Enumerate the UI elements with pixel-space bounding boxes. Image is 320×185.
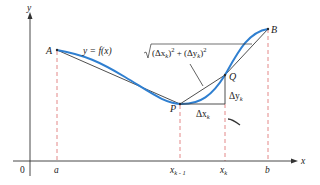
arc-length-diagram: A B P Q y = f(x) (Δxk)2 + (Δyk)2 Δxk Δyk…: [0, 0, 320, 185]
svg-text:(Δxk)2 + (Δyk)2: (Δxk)2 + (Δyk)2: [152, 46, 206, 59]
point-label-B: B: [271, 24, 277, 35]
point-label-P: P: [169, 103, 176, 114]
x-axis-label: x: [300, 156, 306, 166]
tick-label-xk-minus-1: xk - 1: [169, 165, 186, 176]
tick-label-a: a: [54, 165, 59, 175]
tick-label-xk: xk: [219, 165, 227, 176]
point-B-marker: [267, 28, 269, 30]
point-P-marker: [179, 103, 181, 105]
y-axis-label: y: [26, 3, 32, 13]
formula-leader-line: [190, 64, 203, 86]
point-label-Q: Q: [229, 71, 237, 82]
point-label-A: A: [45, 45, 53, 56]
curve-label: y = f(x): [82, 46, 112, 57]
y-axis-arrow-icon: [28, 12, 33, 19]
delta-x-label: Δxk: [196, 109, 210, 120]
point-Q-marker: [224, 74, 226, 76]
delta-y-label: Δyk: [229, 91, 243, 102]
tick-label-b: b: [265, 165, 270, 175]
pointer-stroke-icon: [228, 119, 240, 125]
axes: [13, 17, 293, 176]
origin-label: 0: [20, 165, 25, 175]
x-axis-arrow-icon: [291, 159, 298, 164]
point-A-marker: [56, 49, 58, 51]
